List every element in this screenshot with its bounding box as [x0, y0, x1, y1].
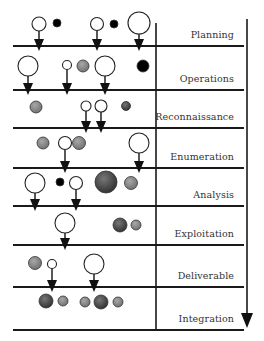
arrow-down-icon [60, 161, 70, 173]
filled-circle-icon [113, 218, 127, 232]
activity-nodes [18, 12, 150, 309]
arrow-down-icon [71, 199, 81, 211]
activity-node [77, 60, 89, 72]
activity-node [110, 20, 118, 28]
open-circle-icon [95, 100, 107, 112]
open-circle-icon [70, 177, 83, 190]
arrow-down-icon [100, 83, 110, 95]
filled-circle-icon [77, 60, 89, 72]
phase-label: Analysis [193, 189, 234, 200]
arrow-down-icon [134, 161, 144, 173]
open-circle-icon [32, 17, 46, 31]
arrow-down-icon [89, 280, 99, 292]
activity-node [80, 297, 90, 307]
filled-circle-icon [58, 296, 68, 306]
open-circle-icon [25, 173, 45, 193]
arrow-down-icon [30, 199, 40, 211]
activity-node [137, 60, 149, 72]
filled-circle-icon [94, 295, 108, 309]
diagram-canvas [0, 0, 264, 341]
phase-label: Integration [179, 313, 234, 324]
filled-circle-icon [122, 102, 131, 111]
activity-node [39, 294, 53, 308]
filled-circle-icon [125, 177, 138, 190]
activity-node [129, 133, 149, 173]
open-circle-icon [129, 133, 149, 153]
arrow-down-icon [62, 83, 72, 95]
open-circle-icon [84, 254, 104, 274]
phase-label: Enumeration [170, 151, 234, 162]
filled-circle-icon [95, 171, 117, 193]
open-circle-icon [18, 56, 38, 76]
open-circle-icon [55, 213, 75, 233]
open-circle-icon [91, 18, 104, 31]
activity-node [37, 137, 49, 149]
filled-circle-icon [80, 297, 90, 307]
filled-circle-icon [39, 294, 53, 308]
arrow-down-icon [81, 121, 91, 133]
arrow-down-icon [47, 280, 57, 292]
phase-diagram: PlanningOperationsReconnaissanceEnumerat… [0, 0, 264, 341]
activity-node [122, 102, 131, 111]
activity-node [29, 257, 42, 270]
open-circle-icon [48, 260, 57, 269]
arrow-down-icon [23, 83, 33, 95]
open-circle-icon [59, 137, 72, 150]
phase-label: Deliverable [178, 270, 234, 281]
arrow-down-icon [60, 238, 70, 250]
filled-circle-icon [30, 101, 42, 113]
filled-circle-icon [37, 137, 49, 149]
activity-node [73, 137, 86, 150]
arrow-down-icon [241, 313, 253, 328]
activity-node [30, 101, 42, 113]
activity-node [113, 297, 123, 307]
phase-label: Operations [180, 73, 234, 84]
filled-circle-icon [137, 60, 149, 72]
arrow-down-icon [34, 39, 44, 51]
filled-circle-icon [131, 220, 141, 230]
timeline-arrow [241, 19, 253, 328]
activity-node [94, 295, 108, 309]
activity-node [58, 296, 68, 306]
phase-label: Reconnaissance [155, 111, 234, 122]
filled-circle-icon [53, 19, 61, 27]
activity-node [125, 177, 138, 190]
arrow-down-icon [96, 121, 106, 133]
open-circle-icon [128, 12, 150, 34]
filled-circle-icon [73, 137, 86, 150]
phase-label: Exploitation [174, 228, 234, 239]
filled-circle-icon [110, 20, 118, 28]
phase-label: Planning [191, 29, 234, 40]
filled-circle-icon [56, 178, 64, 186]
arrow-down-icon [134, 39, 144, 51]
filled-circle-icon [29, 257, 42, 270]
open-circle-icon [81, 101, 91, 111]
activity-node [95, 171, 117, 193]
open-circle-icon [95, 56, 115, 76]
activity-node [56, 178, 64, 186]
activity-node [113, 218, 127, 232]
open-circle-icon [63, 61, 72, 70]
activity-node [131, 220, 141, 230]
arrow-down-icon [92, 39, 102, 51]
activity-node [53, 19, 61, 27]
filled-circle-icon [113, 297, 123, 307]
